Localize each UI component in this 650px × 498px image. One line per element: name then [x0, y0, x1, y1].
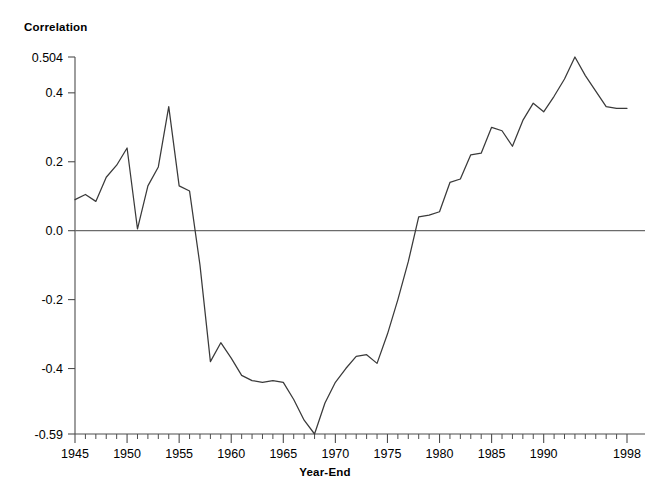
svg-text:1960: 1960 [217, 447, 245, 461]
svg-text:1985: 1985 [478, 447, 506, 461]
svg-text:-0.4: -0.4 [41, 362, 63, 376]
correlation-series-line [75, 57, 627, 434]
svg-text:1980: 1980 [426, 447, 454, 461]
svg-text:0.2: 0.2 [46, 155, 63, 169]
svg-text:-0.2: -0.2 [41, 293, 63, 307]
correlation-line-chart: Correlation Year-End 0.5040.40.20.0-0.2-… [0, 0, 650, 498]
svg-text:1950: 1950 [113, 447, 141, 461]
svg-text:0.504: 0.504 [32, 51, 63, 65]
svg-text:-0.59: -0.59 [35, 428, 64, 442]
svg-text:1998: 1998 [613, 447, 641, 461]
svg-text:1975: 1975 [374, 447, 402, 461]
svg-text:1945: 1945 [61, 447, 89, 461]
svg-text:0.0: 0.0 [46, 224, 63, 238]
svg-text:1965: 1965 [269, 447, 297, 461]
svg-text:0.4: 0.4 [46, 86, 63, 100]
chart-plot-area: 0.5040.40.20.0-0.2-0.4-0.59 194519501955… [0, 0, 650, 498]
svg-text:1990: 1990 [530, 447, 558, 461]
y-axis-ticks: 0.5040.40.20.0-0.2-0.4-0.59 [32, 51, 75, 442]
svg-text:1955: 1955 [165, 447, 193, 461]
x-axis-minor-ticks [85, 434, 616, 439]
svg-text:1970: 1970 [321, 447, 349, 461]
